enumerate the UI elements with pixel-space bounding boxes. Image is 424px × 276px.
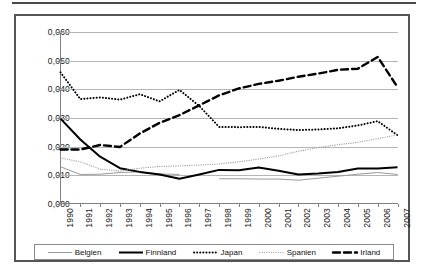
x-tick-label: 2003 <box>322 208 332 228</box>
legend-label-belgien: Belgien <box>75 248 102 257</box>
series-belgien <box>61 167 398 180</box>
series-japan <box>61 72 398 135</box>
x-tick-label: 2002 <box>302 208 312 228</box>
chart-legend: BelgienFinnlandJapanSpanienIrland <box>34 244 394 260</box>
series-spanien <box>61 135 398 171</box>
x-tick-label: 1996 <box>183 208 193 228</box>
x-tick-label: 2000 <box>263 208 273 228</box>
series-lines <box>60 32 398 204</box>
top-divider-rule <box>12 2 416 4</box>
x-tick-label: 2001 <box>283 208 293 228</box>
x-tick-label: 2005 <box>362 208 372 228</box>
legend-label-irland: Irland <box>360 248 380 257</box>
legend-item-belgien[interactable]: Belgien <box>48 248 102 257</box>
legend-swatch-belgien-icon <box>48 248 72 257</box>
legend-swatch-finnland-icon <box>119 248 143 257</box>
legend-item-spanien[interactable]: Spanien <box>260 248 316 257</box>
plot-area <box>60 32 398 204</box>
legend-label-spanien: Spanien <box>287 248 316 257</box>
legend-swatch-japan-icon <box>194 248 218 257</box>
x-tick-label: 1994 <box>144 208 154 228</box>
legend-item-irland[interactable]: Irland <box>333 248 380 257</box>
x-tick-label: 1997 <box>203 208 213 228</box>
chart-figure-frame: 0,0600,0500,0400,0300,0200,0100,000 1990… <box>14 14 410 262</box>
x-tick-label: 1992 <box>104 208 114 228</box>
x-tick-label: 1993 <box>124 208 134 228</box>
x-tick-label: 1998 <box>223 208 233 228</box>
legend-swatch-spanien-icon <box>260 248 284 257</box>
legend-swatch-irland-icon <box>333 248 357 257</box>
legend-label-finnland: Finnland <box>146 248 177 257</box>
legend-item-finnland[interactable]: Finnland <box>119 248 177 257</box>
x-tick-label: 2006 <box>382 208 392 228</box>
x-tick-label: 2004 <box>342 208 352 228</box>
x-tick-label: 1999 <box>243 208 253 228</box>
x-tick-label: 1995 <box>164 208 174 228</box>
series-irland <box>61 57 398 150</box>
x-tick-label: 1990 <box>65 208 75 228</box>
figure-page: 0,0600,0500,0400,0300,0200,0100,000 1990… <box>0 0 424 276</box>
legend-label-japan: Japan <box>221 248 243 257</box>
x-tick-label: 2007 <box>402 208 412 228</box>
legend-item-japan[interactable]: Japan <box>194 248 243 257</box>
x-tick-label: 1991 <box>84 208 94 228</box>
